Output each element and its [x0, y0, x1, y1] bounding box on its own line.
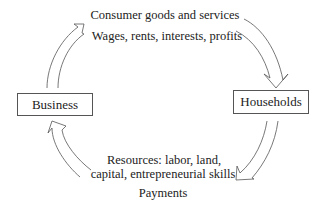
- consumer-goods-label: Consumer goods and services: [86, 9, 244, 22]
- payments-label: Payments: [130, 187, 196, 200]
- business-node: Business: [17, 93, 93, 116]
- resources-label-line1: Resources: labor, land,: [100, 154, 228, 167]
- arrow-business-to-top-icon: [47, 24, 84, 88]
- resources-label-line2: capital, entrepreneurial skills: [89, 168, 237, 181]
- income-label: Wages, rents, interests, profits: [84, 30, 250, 43]
- business-label: Business: [32, 97, 78, 113]
- arrow-bottom-to-business-icon: [48, 121, 91, 177]
- households-label: Households: [240, 94, 301, 110]
- circular-flow-diagram: Business Households Consumer goods and s…: [0, 0, 322, 203]
- households-node: Households: [233, 90, 309, 114]
- arrow-households-to-bottom-icon: [236, 121, 278, 180]
